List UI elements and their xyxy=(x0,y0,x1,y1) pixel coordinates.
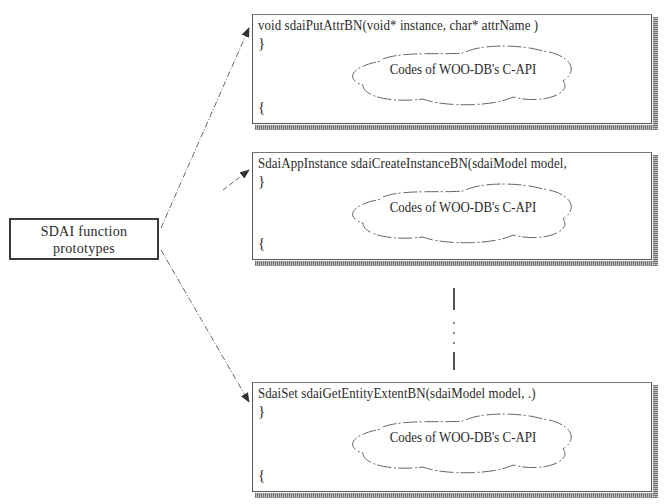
cloud-label: Codes of WOO-DB's C-API xyxy=(360,429,566,446)
function-signature: void sdaiPutAttrBN(void* instance, char*… xyxy=(258,17,538,34)
close-brace: { xyxy=(258,99,265,116)
open-brace: } xyxy=(258,173,265,190)
continuation-line-bottom xyxy=(453,352,455,370)
open-brace: } xyxy=(258,35,265,52)
function-signature: SdaiAppInstance sdaiCreateInstanceBN(sda… xyxy=(258,155,567,172)
function-box-create-instance: SdaiAppInstance sdaiCreateInstanceBN(sda… xyxy=(252,152,652,260)
function-box-put-attr: void sdaiPutAttrBN(void* instance, char*… xyxy=(252,14,652,124)
continuation-dot xyxy=(453,332,455,334)
cloud-shape: Codes of WOO-DB's C-API xyxy=(343,409,583,475)
close-brace: { xyxy=(258,235,265,252)
continuation-line-top xyxy=(453,288,455,310)
cloud-shape: Codes of WOO-DB's C-API xyxy=(343,179,583,245)
close-brace: { xyxy=(258,467,265,484)
cloud-label: Codes of WOO-DB's C-API xyxy=(360,199,566,216)
continuation-dot xyxy=(453,342,455,344)
source-label-line1: SDAI function xyxy=(11,223,157,240)
cloud-shape: Codes of WOO-DB's C-API xyxy=(343,41,583,107)
sdai-prototypes-node: SDAI function prototypes xyxy=(9,218,159,260)
function-signature: SdaiSet sdaiGetEntityExtentBN(sdaiModel … xyxy=(258,385,536,402)
cloud-label: Codes of WOO-DB's C-API xyxy=(360,61,566,78)
function-box-get-entity-extent: SdaiSet sdaiGetEntityExtentBN(sdaiModel … xyxy=(252,382,652,492)
source-label-line2: prototypes xyxy=(11,240,157,257)
continuation-dot xyxy=(453,322,455,324)
open-brace: } xyxy=(258,403,265,420)
